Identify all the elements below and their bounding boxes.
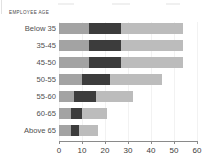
x-axis-tick-label: 10 (78, 146, 87, 155)
x-axis-tick-label: 30 (124, 146, 133, 155)
bar-segment (59, 74, 82, 85)
x-axis-tick (174, 141, 175, 144)
category-label: Below 35 (4, 24, 56, 33)
bar-segment (74, 91, 96, 102)
bar-segment (59, 57, 89, 68)
x-axis-tick (59, 141, 60, 144)
bar-segment (121, 23, 183, 34)
x-axis-tick (151, 141, 152, 144)
bar-segment (121, 57, 183, 68)
category-label: 35-45 (4, 41, 56, 50)
bar-segment (59, 23, 89, 34)
x-axis-tick-label: 40 (147, 146, 156, 155)
bar-segment (59, 91, 74, 102)
bar-segment (59, 125, 71, 136)
bar-segment (59, 40, 89, 51)
bar-segment (71, 108, 83, 119)
category-label: Above 65 (4, 126, 56, 135)
x-axis-tick-label: 60 (193, 146, 202, 155)
bar-segment (79, 125, 99, 136)
category-label: 60-65 (4, 109, 56, 118)
bar-segment (71, 125, 79, 136)
category-label: 45-50 (4, 58, 56, 67)
bar-segment (59, 108, 71, 119)
bar-segment (89, 40, 121, 51)
stacked-bar-chart: Below 3535-4545-5050-5555-6060-65Above 6… (0, 0, 209, 163)
bar-segment (82, 74, 110, 85)
bar-segment (89, 23, 121, 34)
bar-segment (89, 57, 121, 68)
x-axis-tick (105, 141, 106, 144)
x-axis-tick-label: 20 (101, 146, 110, 155)
x-axis-tick-label: 50 (170, 146, 179, 155)
bar-segment (110, 74, 163, 85)
x-axis-tick (128, 141, 129, 144)
category-label: 50-55 (4, 75, 56, 84)
x-axis-tick (197, 141, 198, 144)
bar-segment (82, 108, 107, 119)
x-axis-tick (82, 141, 83, 144)
bar-segment (121, 40, 183, 51)
bar-segment (96, 91, 133, 102)
x-axis-tick-label: 0 (57, 146, 61, 155)
category-label: 55-60 (4, 92, 56, 101)
